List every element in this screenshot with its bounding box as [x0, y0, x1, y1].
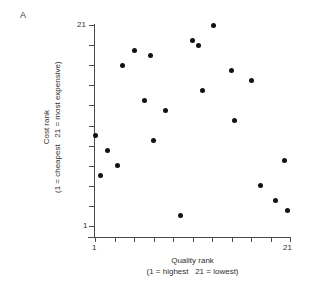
data-point — [200, 88, 205, 93]
data-point — [132, 48, 137, 53]
y-axis-tick — [89, 206, 94, 207]
scatter-plot-figure: A 1 21 21 1 Quality rank (1 = highest 21… — [0, 0, 315, 286]
data-point — [196, 43, 201, 48]
x-axis-tick — [154, 238, 155, 242]
x-axis-title-sub: (1 = highest 21 = lowest) — [95, 267, 290, 278]
y-axis-tick — [89, 146, 94, 147]
data-point — [148, 53, 153, 58]
y-axis-title: Cost rank (1 = cheapest 21 = most expens… — [41, 27, 63, 227]
data-point — [282, 158, 287, 163]
y-axis-tick — [89, 45, 94, 46]
y-axis-title-main: Cost rank — [42, 110, 51, 144]
x-axis-line — [88, 237, 291, 238]
x-axis-tick-label-min: 1 — [92, 244, 96, 252]
x-axis-tick — [173, 238, 174, 242]
y-axis-tick — [89, 65, 94, 66]
y-axis-tick — [89, 105, 94, 106]
y-axis-tick — [89, 85, 94, 86]
x-axis-title-main: Quality rank — [171, 256, 214, 265]
x-axis-tick — [290, 238, 291, 242]
data-point — [232, 118, 237, 123]
data-point — [93, 133, 98, 138]
panel-label: A — [20, 11, 26, 20]
y-axis-tick — [89, 226, 94, 227]
x-axis-tick — [134, 238, 135, 242]
y-axis-tick — [89, 25, 94, 26]
x-axis-tick — [115, 238, 116, 242]
data-point — [120, 63, 125, 68]
x-axis-tick — [95, 238, 96, 242]
data-point — [229, 68, 234, 73]
x-axis-tick — [271, 238, 272, 242]
y-axis-tick-label-max: 21 — [77, 21, 86, 29]
x-axis-title: Quality rank (1 = highest 21 = lowest) — [95, 256, 290, 278]
plot-area — [95, 25, 290, 226]
data-point — [163, 108, 168, 113]
y-axis-tick — [89, 166, 94, 167]
y-axis-tick — [89, 186, 94, 187]
y-axis-tick-label-min: 1 — [83, 222, 87, 230]
x-axis-tick — [212, 238, 213, 242]
x-axis-tick — [251, 238, 252, 242]
y-axis-tick — [89, 126, 94, 127]
x-axis-tick-label-max: 21 — [283, 244, 292, 252]
x-axis-tick — [232, 238, 233, 242]
data-point — [190, 38, 195, 43]
y-axis-title-sub: (1 = cheapest 21 = most expensive) — [52, 27, 63, 227]
x-axis-tick — [193, 238, 194, 242]
